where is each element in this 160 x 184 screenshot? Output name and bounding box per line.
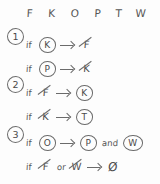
connector-keyword: and <box>101 138 118 148</box>
implication-arrow-icon <box>56 88 72 98</box>
header-letter-k: K <box>45 7 60 19</box>
if-keyword: if <box>26 162 32 172</box>
circled-letter-o[interactable]: O <box>39 135 56 151</box>
if-keyword: if <box>26 88 32 98</box>
implication-arrow-icon <box>56 112 72 122</box>
if-keyword: if <box>26 112 32 122</box>
implication-arrow-icon <box>87 162 103 172</box>
struck-letter-w[interactable]: W <box>71 160 83 175</box>
struck-letter-f[interactable]: F <box>39 160 51 175</box>
rule-line: ifKF <box>26 36 94 54</box>
rule-line: ifFK <box>26 84 94 102</box>
group-number-badge: 3 <box>7 126 24 143</box>
rule-line: ifPK <box>26 60 94 78</box>
group-number-badge: 1 <box>7 28 24 45</box>
circled-letter-t[interactable]: T <box>76 109 93 125</box>
circled-letter-p[interactable]: P <box>39 61 56 77</box>
implication-arrow-icon <box>60 40 76 50</box>
implication-arrow-icon <box>60 64 76 74</box>
empty-set-icon: Ø <box>108 160 118 174</box>
circled-letter-k[interactable]: K <box>39 37 56 53</box>
diagram-canvas: FKOPTW 1ifKFifPK2ifFKifKT3ifOPandWifForW… <box>0 0 160 184</box>
implication-arrow-icon <box>60 138 76 148</box>
if-keyword: if <box>26 40 32 50</box>
if-keyword: if <box>26 138 32 148</box>
rule-line: ifForWØ <box>26 158 120 176</box>
circled-letter-k[interactable]: K <box>76 85 93 101</box>
struck-letter-f[interactable]: F <box>80 38 92 53</box>
circled-letter-w[interactable]: W <box>123 135 143 151</box>
circled-letter-p[interactable]: P <box>80 135 97 151</box>
rule-line: ifOPandW <box>26 134 144 152</box>
header-letter-p: P <box>91 7 106 19</box>
rule-line: ifKT <box>26 108 94 126</box>
struck-letter-f[interactable]: F <box>39 86 51 101</box>
struck-letter-k[interactable]: K <box>39 110 51 125</box>
struck-letter-k[interactable]: K <box>80 62 92 77</box>
connector-keyword: or <box>56 162 65 172</box>
group-number-badge: 2 <box>7 76 24 93</box>
header-letter-t: T <box>112 7 127 19</box>
header-letter-w: W <box>134 7 149 19</box>
header-letter-o: O <box>68 7 83 19</box>
if-keyword: if <box>26 64 32 74</box>
header-letter-f: F <box>23 7 38 19</box>
header-letter-row: FKOPTW <box>0 7 160 23</box>
